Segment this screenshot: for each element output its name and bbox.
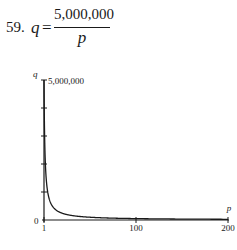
chart: q 5,000,000 0 p 1 100 200 xyxy=(0,0,237,250)
data-curve xyxy=(44,80,228,219)
y-max-label: 5,000,000 xyxy=(48,76,85,86)
x-tick-label-200: 200 xyxy=(221,223,235,233)
y-zero-label: 0 xyxy=(34,216,39,226)
x-axis-label: p xyxy=(226,203,232,213)
y-axis-label: q xyxy=(33,69,38,79)
x-tick-label-1: 1 xyxy=(42,223,47,233)
x-tick-label-100: 100 xyxy=(129,223,143,233)
